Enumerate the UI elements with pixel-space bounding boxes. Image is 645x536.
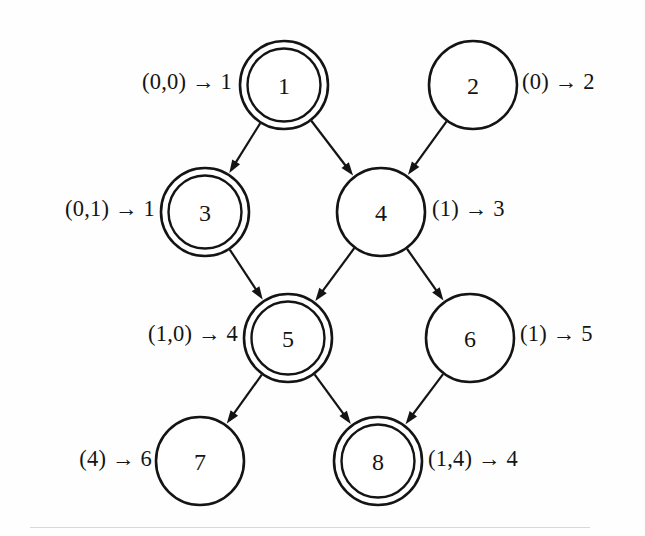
node-6[interactable]: 6: [426, 294, 514, 382]
node-7[interactable]: 7: [156, 417, 244, 505]
node-3-label: 3: [199, 200, 211, 226]
annotation-node-1: (0,0) → 1: [142, 71, 232, 94]
annotation-node-4: (1) → 3: [432, 198, 505, 221]
edge-1-to-3: [229, 123, 260, 173]
node-8[interactable]: 8: [334, 417, 422, 505]
annotation-node-7: (4) → 6: [79, 448, 152, 471]
node-8-label: 8: [372, 449, 384, 475]
edge-5-to-8: [315, 374, 351, 424]
edge-6-to-8: [406, 374, 443, 424]
node-1[interactable]: 1: [240, 41, 328, 129]
bottom-divider: [30, 527, 590, 528]
annotation-node-6: (1) → 5: [520, 323, 593, 346]
state-transition-diagram: 12345678 (0,0) → 1(0) → 2(0,1) → 1(1) → …: [0, 0, 645, 536]
edges-group: [227, 121, 447, 424]
node-3[interactable]: 3: [161, 168, 249, 256]
edge-2-to-4: [408, 121, 447, 174]
node-2-label: 2: [467, 73, 479, 99]
edge-1-to-4: [311, 121, 353, 176]
annotation-node-3: (0,1) → 1: [65, 198, 155, 221]
edge-5-to-7: [227, 375, 262, 424]
node-5[interactable]: 5: [244, 294, 332, 382]
node-6-label: 6: [464, 326, 476, 352]
edge-4-to-5: [315, 248, 354, 301]
node-1-label: 1: [278, 73, 290, 99]
edge-4-to-6: [407, 249, 443, 301]
annotation-node-5: (1,0) → 4: [148, 323, 238, 346]
node-5-label: 5: [282, 326, 294, 352]
node-7-label: 7: [194, 449, 206, 475]
node-4[interactable]: 4: [337, 168, 425, 256]
node-4-label: 4: [375, 200, 387, 226]
node-2[interactable]: 2: [429, 41, 517, 129]
annotation-node-2: (0) → 2: [522, 71, 595, 94]
annotation-node-8: (1,4) → 4: [428, 448, 518, 471]
edge-3-to-5: [230, 250, 263, 300]
